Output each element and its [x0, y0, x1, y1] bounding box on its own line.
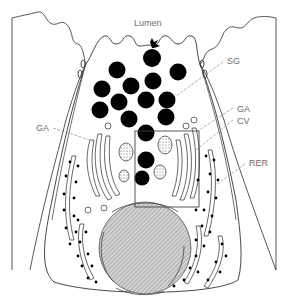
label-secretory-granules: SG: [227, 56, 240, 66]
label-golgi-left: GA: [36, 123, 49, 133]
label-rough-er: RER: [249, 158, 269, 168]
nucleus: [99, 202, 191, 295]
golgi-apparatus-left: [85, 123, 133, 213]
label-lumen: Lumen: [134, 18, 162, 28]
acinar-cell-diagram: Lumen SG GA CV RER GA: [0, 0, 288, 308]
label-condensing-vacuole: CV: [237, 116, 250, 126]
golgi-apparatus-right: [154, 117, 200, 200]
label-golgi-right: GA: [237, 104, 250, 114]
